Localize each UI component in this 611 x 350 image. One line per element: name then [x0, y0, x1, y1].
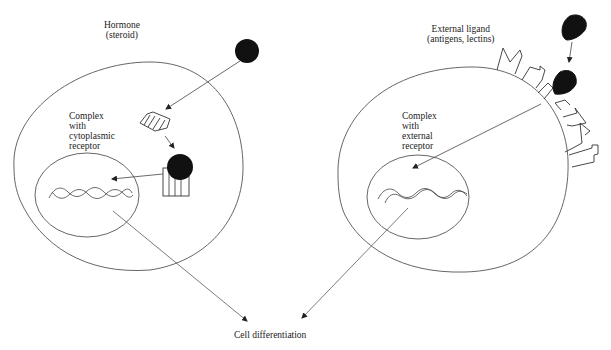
- steroid-hormone-molecule-icon: [235, 39, 259, 63]
- hormone-entry-arrow: [166, 61, 240, 109]
- ligand-approach-arrow: [569, 42, 572, 62]
- hormone-receptor-complex-icon: [163, 154, 193, 196]
- receptor-binding-arrow: [165, 136, 174, 148]
- diagram-canvas: Hormone (steroid) Complex with cytoplasm…: [0, 0, 611, 350]
- diagram-graphics: [0, 0, 611, 350]
- left-differentiation-arrow: [113, 211, 247, 321]
- dna-double-helix-icon: [49, 188, 133, 199]
- external-ligand-label: External ligand (antigens, lectins): [427, 24, 495, 44]
- complex-external-label: Complex with external receptor: [402, 111, 437, 151]
- right-cell-membrane: [338, 67, 568, 272]
- cell-differentiation-label: Cell differentiation: [234, 330, 306, 340]
- right-cell: [302, 15, 598, 318]
- cytoplasmic-receptor-icon: [140, 112, 170, 131]
- external-ligand-molecule-icon: [562, 15, 586, 40]
- left-cell-membrane: [14, 62, 243, 271]
- complex-to-nucleus-arrow: [112, 174, 163, 179]
- hormone-label: Hormone (steroid): [104, 20, 140, 40]
- bound-ligand-molecule-icon: [553, 71, 576, 95]
- right-differentiation-arrow: [302, 208, 408, 318]
- left-cell: [14, 39, 259, 321]
- dna-double-helix-icon: [378, 189, 467, 204]
- right-nucleus: [367, 155, 469, 239]
- complex-cytoplasmic-label: Complex with cytoplasmic receptor: [69, 111, 115, 151]
- membrane-receptor-icons: [497, 48, 598, 167]
